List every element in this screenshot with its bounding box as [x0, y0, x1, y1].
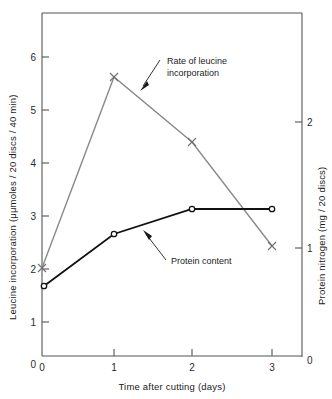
protein-annotation-line1: Protein content	[171, 256, 232, 266]
y-axis-title: Leucine incorporation (μμmoles / 20 disc…	[7, 95, 18, 321]
left-tick-label-5: 5	[30, 105, 36, 116]
left-tick-label-3: 3	[30, 211, 36, 222]
protein-marker-day2	[189, 206, 194, 211]
y2-axis-title: Protein nitrogen (mg / 20 discs)	[316, 167, 327, 305]
leucine-marker-day1	[110, 73, 118, 81]
protein-annotation-arrow-icon	[143, 230, 152, 240]
right-tick-label-0: 0	[307, 355, 313, 366]
figure-container: 6 5 4 3 2 1 0 2 1 0 0 1 2 3 Leucine in	[0, 0, 332, 399]
protein-line	[44, 209, 272, 286]
bottom-tick-label-3: 3	[269, 362, 275, 373]
left-tick-label-6: 6	[30, 52, 36, 63]
series-protein-content	[41, 206, 274, 288]
caption-strip	[0, 383, 332, 399]
protein-marker-day3	[269, 206, 274, 211]
left-tick-label-2: 2	[30, 264, 36, 275]
protein-marker-day0	[41, 283, 46, 288]
bottom-axis-ticks: 0 1 2 3	[39, 349, 275, 373]
protein-marker-day1	[111, 231, 116, 236]
left-tick-label-0: 0	[30, 359, 36, 370]
left-tick-label-4: 4	[30, 158, 36, 169]
left-axis-ticks: 6 5 4 3 2 1 0	[30, 52, 49, 370]
right-tick-label-2: 2	[307, 117, 313, 128]
rate-annotation-line2: incorporation	[167, 68, 219, 78]
annotation-protein-content: Protein content	[143, 230, 232, 266]
series-rate-of-leucine-incorporation	[38, 73, 276, 272]
bottom-tick-label-2: 2	[189, 362, 195, 373]
rate-annotation-leader-line	[143, 60, 160, 86]
annotation-rate-of-leucine-incorporation: Rate of leucine incorporation	[140, 56, 227, 91]
bottom-tick-label-1: 1	[111, 362, 117, 373]
leucine-marker-day3	[268, 242, 276, 250]
bottom-tick-label-0: 0	[39, 362, 45, 373]
chart-canvas: 6 5 4 3 2 1 0 2 1 0 0 1 2 3 Leucine in	[0, 0, 332, 399]
rate-annotation-line1: Rate of leucine	[167, 56, 227, 66]
rate-annotation-arrow-icon	[140, 81, 149, 91]
leucine-marker-day2	[188, 138, 196, 146]
right-axis-ticks: 2 1 0	[295, 117, 313, 366]
left-tick-label-1: 1	[30, 317, 36, 328]
leucine-line	[42, 77, 272, 268]
right-tick-label-1: 1	[307, 243, 313, 254]
